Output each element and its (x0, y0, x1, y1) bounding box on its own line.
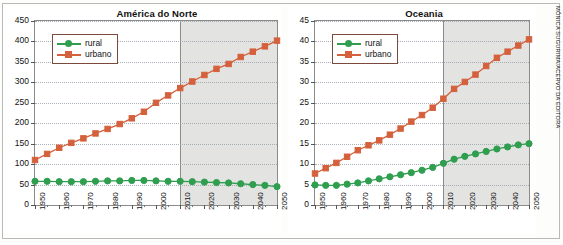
data-point-rural (226, 180, 232, 186)
data-point-rural (333, 182, 339, 188)
data-point-urbano (312, 171, 317, 176)
credit-text: MÔNICA SUGURIMA/ACERVO DA EDITORA (555, 6, 561, 128)
x-axis-tick-label: 2000 (425, 192, 434, 210)
data-point-rural (117, 178, 123, 184)
legend-label-rural: rural (85, 38, 102, 49)
data-point-rural (201, 179, 207, 185)
data-point-rural (472, 151, 478, 157)
data-point-urbano (419, 112, 424, 117)
data-point-urbano (214, 66, 219, 71)
data-point-rural (365, 178, 371, 184)
square-marker-icon (65, 51, 72, 58)
x-tick-mark (204, 205, 205, 209)
x-tick-mark-minor (71, 205, 72, 207)
data-point-rural (105, 178, 111, 184)
data-point-urbano (398, 126, 403, 131)
chart-panel-america-do-norte: América do Norte rural urbano 0501001502… (4, 6, 282, 234)
x-tick-mark (229, 205, 230, 209)
data-point-rural (398, 172, 404, 178)
x-tick-mark (180, 205, 181, 209)
data-point-rural (440, 160, 446, 166)
chart-title-oceania: Oceania (288, 8, 536, 19)
x-tick-mark-minor (192, 205, 193, 207)
y-axis-tick-label: 450 (15, 15, 29, 25)
x-tick-mark-minor (168, 205, 169, 207)
x-axis-tick-label: 1970 (86, 192, 95, 210)
legend-swatch-rural-icon (337, 39, 361, 48)
x-tick-mark (277, 205, 278, 209)
y-axis-tick-label: 150 (15, 138, 29, 148)
legend-item-urbano: urbano (337, 49, 391, 60)
data-point-rural (68, 179, 74, 185)
data-point-rural (80, 179, 86, 185)
legend-swatch-rural-icon (57, 39, 81, 48)
data-point-rural (462, 153, 468, 159)
x-axis-tick-label: 2000 (159, 192, 168, 210)
data-point-urbano (483, 63, 488, 68)
data-point-urbano (387, 132, 392, 137)
data-point-urbano (274, 38, 279, 43)
data-point-urbano (516, 43, 521, 48)
x-tick-mark (35, 205, 36, 209)
data-point-rural (141, 177, 147, 183)
data-point-rural (419, 167, 425, 173)
x-axis-tick-label: 2040 (256, 192, 265, 210)
data-point-rural (344, 181, 350, 187)
data-point-rural (355, 180, 361, 186)
x-axis-tick-label: 1960 (62, 192, 71, 210)
chart-title-america-do-norte: América do Norte (4, 8, 282, 19)
x-axis-tick-label: 1980 (382, 192, 391, 210)
data-point-rural (387, 174, 393, 180)
data-point-rural (32, 178, 38, 184)
data-point-urbano (430, 105, 435, 110)
data-point-urbano (105, 126, 110, 131)
x-axis-tick-label: 2030 (232, 192, 241, 210)
legend-item-rural: rural (337, 38, 391, 49)
x-axis-tick-label: 1960 (339, 192, 348, 210)
y-axis-tick-label: 350 (15, 56, 29, 66)
y-axis-tick-label: 30 (300, 76, 309, 86)
x-tick-mark-minor (265, 205, 266, 207)
y-axis-tick-label: 0 (24, 199, 29, 209)
y-axis-tick-label: 25 (300, 97, 309, 107)
y-axis-tick-label: 20 (300, 117, 309, 127)
x-axis-tick-label: 1990 (135, 192, 144, 210)
data-point-urbano (81, 136, 86, 141)
square-marker-icon (345, 51, 352, 58)
x-axis-tick-label: 1950 (318, 192, 327, 210)
x-tick-mark-minor (47, 205, 48, 207)
y-axis-tick-label: 50 (20, 179, 29, 189)
chart-panel-oceania: Oceania rural urbano 0510152025303540451… (288, 6, 536, 234)
data-point-rural (451, 156, 457, 162)
data-point-urbano (190, 79, 195, 84)
data-point-urbano (526, 37, 531, 42)
data-point-rural (92, 178, 98, 184)
legend-swatch-urbano-icon (57, 50, 81, 59)
data-point-rural (323, 182, 329, 188)
x-axis-tick-label: 1990 (404, 192, 413, 210)
x-axis-tick-label: 2050 (532, 192, 541, 210)
data-point-rural (274, 184, 280, 190)
data-point-urbano (177, 85, 182, 90)
data-point-urbano (93, 131, 98, 136)
data-point-urbano (129, 116, 134, 121)
x-axis-tick-label: 1950 (38, 192, 47, 210)
x-tick-mark (336, 205, 337, 209)
data-point-urbano (323, 165, 328, 170)
x-axis-tick-label: 2030 (489, 192, 498, 210)
y-axis-tick-label: 5 (304, 179, 309, 189)
data-point-urbano (366, 143, 371, 148)
data-point-urbano (409, 119, 414, 124)
data-point-urbano (117, 121, 122, 126)
legend-swatch-urbano-icon (337, 50, 361, 59)
x-tick-mark (422, 205, 423, 209)
legend-label-urbano: urbano (365, 49, 391, 60)
data-point-urbano (141, 109, 146, 114)
data-point-rural (129, 177, 135, 183)
x-tick-mark (253, 205, 254, 209)
legend-label-rural: rural (365, 38, 382, 49)
data-point-urbano (153, 100, 158, 105)
y-axis-tick-label: 45 (300, 15, 309, 25)
data-point-rural (262, 182, 268, 188)
x-tick-mark (358, 205, 359, 209)
